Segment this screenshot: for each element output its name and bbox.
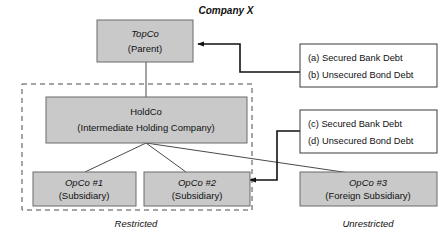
debt-box-lower-frame[interactable]	[300, 110, 437, 153]
debt-upper-line-a: (a) Secured Bank Debt	[308, 53, 403, 63]
entity-opco2-role: (Subsidiary)	[172, 190, 223, 201]
entity-holdco[interactable]: HoldCo (Intermediate Holding Company)	[46, 97, 247, 143]
debt-box-lower[interactable]: (c) Secured Bank Debt (d) Unsecured Bond…	[300, 110, 437, 153]
flow-upper-debt-to-topco	[198, 44, 300, 72]
zone-label-unrestricted: Unrestricted	[342, 218, 394, 229]
diagram-canvas: TopCo (Parent) HoldCo (Intermediate Hold…	[0, 0, 443, 243]
debt-box-upper[interactable]: (a) Secured Bank Debt (b) Unsecured Bond…	[300, 44, 437, 87]
flow-lower-debt-to-opco2	[250, 131, 300, 180]
entity-topco[interactable]: TopCo (Parent)	[97, 20, 193, 62]
entity-holdco-box[interactable]	[46, 97, 247, 143]
org-structure-diagram: TopCo (Parent) HoldCo (Intermediate Hold…	[0, 0, 443, 243]
zone-label-restricted: Restricted	[115, 218, 158, 229]
entity-holdco-name: HoldCo	[130, 106, 162, 117]
entity-opco1-name: OpCo #1	[65, 177, 103, 188]
entity-topco-role: (Parent)	[128, 43, 162, 54]
entity-topco-name: TopCo	[131, 28, 159, 39]
entity-topco-box[interactable]	[97, 20, 193, 62]
entity-holdco-role: (Intermediate Holding Company)	[77, 122, 214, 133]
diagram-title: Company X	[198, 5, 254, 16]
entity-opco3-role: (Foreign Subsidiary)	[325, 190, 411, 201]
debt-lower-line-c: (c) Secured Bank Debt	[308, 119, 402, 129]
entity-opco1[interactable]: OpCo #1 (Subsidiary)	[33, 172, 136, 206]
debt-box-upper-frame[interactable]	[300, 44, 437, 87]
debt-upper-line-b: (b) Unsecured Bond Debt	[308, 70, 414, 80]
entity-opco3-name: OpCo #3	[349, 177, 388, 188]
entity-opco2[interactable]: OpCo #2 (Subsidiary)	[144, 172, 250, 206]
entity-opco1-role: (Subsidiary)	[59, 190, 110, 201]
connector-holdco-opco2	[146, 143, 186, 172]
connector-holdco-opco1	[85, 143, 146, 172]
entity-opco3[interactable]: OpCo #3 (Foreign Subsidiary)	[300, 172, 437, 206]
debt-lower-line-d: (d) Unsecured Bond Debt	[308, 136, 414, 146]
entity-opco2-name: OpCo #2	[178, 177, 217, 188]
